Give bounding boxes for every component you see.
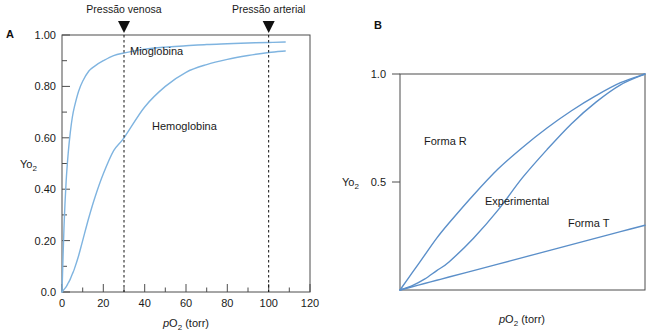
panel-b-y-axis-title-sub: 2 — [354, 182, 359, 191]
label-forma-r: Forma R — [424, 135, 467, 147]
panel-b-svg: B 1.0 0.5 Yo2 pO2 (torr) Forma R Experim… — [340, 0, 654, 334]
panel-a-ytick-1: 0.20 — [35, 235, 56, 247]
marker-venous-pressure-label: Pressão venosa — [86, 3, 161, 15]
label-mioglobina: Mioglobina — [130, 45, 184, 57]
panel-b-letter: B — [374, 19, 382, 31]
panel-a-xtick-1: 20 — [97, 297, 109, 309]
label-experimental: Experimental — [485, 195, 549, 207]
curve-forma-t — [400, 225, 645, 290]
panel-a-plot-frame — [62, 35, 310, 292]
panel-b-y-axis-title: Yo2 — [342, 176, 359, 191]
panel-a-y-axis-title: Yo2 — [20, 158, 37, 173]
panel-a-ytick-3: 0.60 — [35, 132, 56, 144]
panel-a-x-axis-title-p: p — [162, 317, 169, 329]
panel-a-xtick-3: 60 — [180, 297, 192, 309]
panel-a-svg: A 0.0 0.20 0.40 0. — [0, 0, 340, 334]
panel-b-x-axis-title-unit: (torr) — [518, 313, 545, 325]
panel-a-xtick-0: 0 — [59, 297, 65, 309]
panel-a-x-axis-title-unit: (torr) — [182, 317, 209, 329]
curve-hemoglobina — [62, 51, 285, 292]
panel-a-ytick-0: 0.0 — [41, 286, 56, 298]
figure-oxygen-binding-curves: A 0.0 0.20 0.40 0. — [0, 0, 654, 334]
label-forma-t: Forma T — [568, 217, 610, 229]
panel-b: B 1.0 0.5 Yo2 pO2 (torr) Forma R Experim… — [340, 0, 654, 334]
panel-b-x-axis-title-p: p — [498, 313, 505, 325]
panel-a-xtick-6: 120 — [301, 297, 319, 309]
panel-a-letter: A — [6, 28, 14, 40]
panel-a: A 0.0 0.20 0.40 0. — [0, 0, 340, 334]
marker-arterial-pressure: Pressão arterial — [232, 3, 306, 292]
panel-a-xtick-5: 100 — [260, 297, 278, 309]
label-hemoglobina: Hemoglobina — [152, 120, 218, 132]
panel-b-ytick-0: 0.5 — [371, 176, 386, 188]
panel-a-y-axis-title-main: Yo — [20, 158, 32, 170]
panel-b-y-axis-title-main: Yo — [342, 176, 354, 188]
panel-a-y-axis-title-sub: 2 — [32, 164, 37, 173]
panel-a-y-minor-ticks — [62, 61, 67, 267]
panel-b-ytick-1: 1.0 — [371, 68, 386, 80]
marker-arterial-pressure-label: Pressão arterial — [232, 3, 306, 15]
panel-a-ytick-4: 0.80 — [35, 80, 56, 92]
panel-a-ytick-5: 1.00 — [35, 29, 56, 41]
panel-b-x-axis-title: pO2 (torr) — [498, 313, 545, 328]
panel-a-xtick-4: 80 — [221, 297, 233, 309]
panel-a-ytick-2: 0.40 — [35, 183, 56, 195]
panel-a-x-axis-title: pO2 (torr) — [162, 317, 209, 332]
panel-a-xtick-2: 40 — [139, 297, 151, 309]
panel-a-x-major-ticks — [62, 284, 310, 292]
